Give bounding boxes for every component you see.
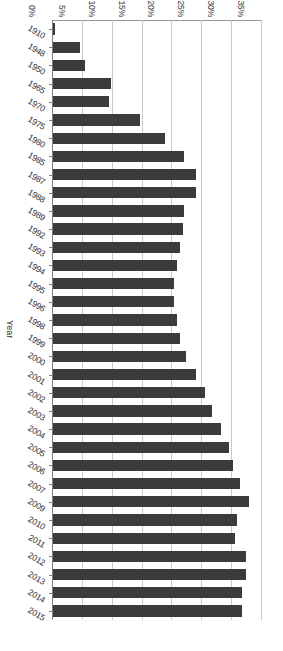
bar[interactable] — [53, 133, 165, 144]
category-tick — [49, 611, 53, 612]
category-tick — [49, 193, 53, 194]
category-tick — [49, 465, 53, 466]
category-tick — [49, 575, 53, 576]
category-tick — [49, 211, 53, 212]
bar[interactable] — [53, 369, 196, 380]
bar[interactable] — [53, 460, 233, 471]
value-tick-label: 20% — [146, 1, 156, 17]
bar[interactable] — [53, 496, 249, 507]
category-tick-label-text: 2013 — [26, 568, 47, 586]
category-tick-label: 2000 — [26, 350, 47, 368]
category-tick-label: 2011 — [27, 532, 47, 549]
category-tick — [49, 156, 53, 157]
bar[interactable] — [53, 169, 196, 180]
bar-chart-figure: 0%5%10%15%20%25%30%35% 19101948195019651… — [0, 0, 283, 651]
bar[interactable] — [53, 387, 205, 398]
category-tick — [49, 29, 53, 30]
category-tick — [49, 138, 53, 139]
bar[interactable] — [53, 42, 80, 53]
category-tick — [49, 593, 53, 594]
category-tick-label-text: 2004 — [26, 423, 47, 441]
bar[interactable] — [53, 23, 55, 34]
category-tick-label: 2004 — [26, 423, 47, 441]
category-tick-label: 2014 — [26, 587, 47, 605]
category-tick — [49, 120, 53, 121]
category-tick-label-text: 1988 — [26, 187, 47, 205]
bar[interactable] — [53, 405, 212, 416]
category-tick — [49, 247, 53, 248]
category-tick-label-text: 1910 — [26, 23, 47, 41]
category-tick — [49, 393, 53, 394]
category-tick-label: 2007 — [26, 478, 47, 496]
bar[interactable] — [53, 605, 242, 616]
category-tick-label-text: 2003 — [26, 405, 47, 423]
category-tick — [49, 265, 53, 266]
category-tick-label-text: 1998 — [26, 314, 47, 332]
value-axis-tick-labels: 0%5%10%15%20%25%30%35% — [53, 0, 262, 20]
category-tick-label: 2010 — [26, 514, 47, 532]
bar[interactable] — [53, 333, 180, 344]
category-tick-label: 2001 — [26, 368, 47, 386]
bar[interactable] — [53, 569, 246, 580]
category-tick-label: 1910 — [26, 23, 47, 41]
bar[interactable] — [53, 151, 184, 162]
category-tick-label: 2012 — [26, 550, 47, 568]
category-tick-label-text: 2005 — [26, 441, 47, 459]
category-tick — [49, 447, 53, 448]
category-tick-label: 1994 — [26, 259, 47, 277]
bars-layer — [53, 20, 262, 620]
category-tick-label: 1998 — [26, 314, 47, 332]
value-tick-label: 5% — [57, 5, 67, 17]
bar[interactable] — [53, 442, 229, 453]
category-tick-label-text: 2012 — [26, 550, 47, 568]
category-tick — [49, 520, 53, 521]
bar[interactable] — [53, 587, 242, 598]
category-tick-label-text: 2000 — [26, 350, 47, 368]
bar[interactable] — [53, 278, 174, 289]
category-tick-label: 2002 — [26, 387, 47, 405]
category-tick — [49, 65, 53, 66]
category-tick-label: 1980 — [26, 132, 47, 150]
category-tick-label-text: 1999 — [26, 332, 47, 350]
bar[interactable] — [53, 551, 246, 562]
category-tick-label: 2009 — [26, 496, 47, 514]
bar[interactable] — [53, 514, 237, 525]
bar[interactable] — [53, 314, 177, 325]
category-tick-label: 2013 — [26, 568, 47, 586]
rotated-figure-container: 0%5%10%15%20%25%30%35% 19101948195019651… — [0, 0, 283, 651]
value-tick-label: 30% — [206, 1, 216, 17]
category-tick-label-text: 2002 — [26, 387, 47, 405]
category-tick — [49, 47, 53, 48]
category-tick-label: 2006 — [26, 459, 47, 477]
category-tick-label: 1993 — [26, 241, 47, 259]
bar[interactable] — [53, 478, 241, 489]
bar[interactable] — [53, 78, 111, 89]
bar[interactable] — [53, 242, 180, 253]
category-axis-title: Year — [5, 320, 15, 338]
category-tick-label-text: 2009 — [26, 496, 47, 514]
bar[interactable] — [53, 60, 85, 71]
bar[interactable] — [53, 533, 235, 544]
category-tick-label-text: 2015 — [26, 605, 47, 623]
bar[interactable] — [53, 96, 109, 107]
category-tick-label: 1985 — [26, 150, 47, 168]
category-tick-label-text: 1970 — [26, 96, 47, 114]
bar[interactable] — [53, 296, 174, 307]
category-tick — [49, 411, 53, 412]
category-tick-label-text: 1992 — [26, 223, 47, 241]
category-tick — [49, 320, 53, 321]
bar[interactable] — [53, 423, 221, 434]
category-tick-label-text: 2011 — [27, 532, 47, 549]
category-tick-label-text: 1989 — [26, 205, 47, 223]
value-tick-label: 25% — [176, 1, 186, 17]
bar[interactable] — [53, 351, 186, 362]
bar[interactable] — [53, 205, 184, 216]
category-tick-label-text: 1995 — [26, 278, 47, 296]
bar[interactable] — [53, 187, 196, 198]
category-tick — [49, 84, 53, 85]
category-tick — [49, 502, 53, 503]
bar[interactable] — [53, 223, 183, 234]
bar[interactable] — [53, 114, 140, 125]
bar[interactable] — [53, 260, 177, 271]
category-tick — [49, 302, 53, 303]
